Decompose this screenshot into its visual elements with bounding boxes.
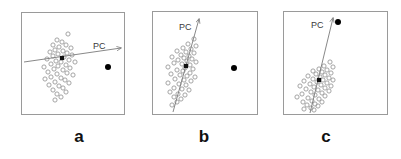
data-point xyxy=(314,72,318,76)
data-point xyxy=(325,81,329,85)
data-point xyxy=(295,95,299,99)
data-point xyxy=(322,64,326,68)
data-point xyxy=(308,82,312,86)
data-point xyxy=(321,78,325,82)
data-point xyxy=(298,84,302,88)
data-point xyxy=(301,100,305,104)
data-point xyxy=(319,83,323,87)
data-point xyxy=(323,86,327,90)
data-point xyxy=(320,100,324,104)
data-point xyxy=(328,60,332,64)
data-point xyxy=(331,65,335,69)
panel-caption-a: a xyxy=(64,128,94,145)
data-point xyxy=(306,74,310,78)
data-point xyxy=(325,68,329,72)
data-point xyxy=(309,90,313,94)
data-point xyxy=(327,76,331,80)
data-point xyxy=(327,89,331,93)
data-point xyxy=(305,103,309,107)
data-point xyxy=(323,73,327,77)
panel-c-pc-label: PC xyxy=(311,21,324,30)
data-point xyxy=(302,79,306,83)
data-point xyxy=(306,96,310,100)
panel-caption-b: b xyxy=(189,128,219,145)
data-point xyxy=(304,87,308,91)
panel-c-point-cloud xyxy=(295,60,335,112)
data-point xyxy=(329,84,333,88)
data-point xyxy=(312,85,316,89)
panel-c-outlier-point xyxy=(335,19,341,25)
data-point xyxy=(311,77,315,81)
data-point xyxy=(323,94,327,98)
pca-outlier-figure: PCPCPC a b c xyxy=(0,0,401,159)
data-point xyxy=(316,88,320,92)
panel-caption-c: c xyxy=(311,128,341,145)
data-point xyxy=(329,71,333,75)
data-point xyxy=(302,107,306,111)
panel-c-centroid-marker xyxy=(317,78,321,82)
data-point xyxy=(300,92,304,96)
data-point xyxy=(331,78,335,82)
